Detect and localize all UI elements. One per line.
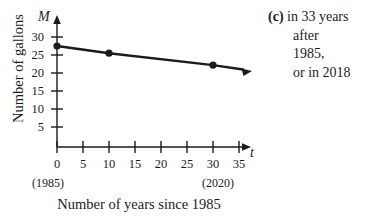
x-tick-label: 5 xyxy=(73,158,93,170)
x-tick-label: 20 xyxy=(151,158,171,170)
answer-line-1: (c) in 33 years xyxy=(268,8,386,27)
answer-line-3: 1985, xyxy=(268,45,386,64)
answer-part-label: (c) xyxy=(268,9,284,24)
x-axis-end-year-note: (2020) xyxy=(202,176,234,191)
answer-text-1: in 33 years xyxy=(287,9,348,24)
x-tick-label: 30 xyxy=(203,158,223,170)
data-series-line xyxy=(57,46,252,76)
x-tick-label: 25 xyxy=(177,158,197,170)
x-axis-start-year-note: (1985) xyxy=(32,176,64,191)
data-point xyxy=(105,50,112,57)
figure-root: ••• xyxy=(0,0,387,220)
x-tick-label: 10 xyxy=(99,158,119,170)
x-tick-label: 15 xyxy=(125,158,145,170)
x-axis xyxy=(57,143,251,151)
x-axis-symbol: t xyxy=(250,145,254,161)
x-axis-caption: Number of years since 1985 xyxy=(24,196,254,213)
line-chart: M t 30 25 20 15 10 5 0 5 10 15 20 25 30 … xyxy=(0,0,262,220)
answer-block: (c) in 33 years after 1985, or in 2018 xyxy=(268,8,386,82)
y-axis-symbol: M xyxy=(38,9,50,25)
answer-line-4: or in 2018 xyxy=(268,64,386,83)
y-axis-caption: Number of gallons xyxy=(10,0,27,139)
data-point xyxy=(209,62,216,69)
x-tick-label: 35 xyxy=(229,158,249,170)
answer-line-2: after xyxy=(268,27,386,46)
data-point xyxy=(53,42,60,49)
x-tick-label: 0 xyxy=(47,158,67,170)
